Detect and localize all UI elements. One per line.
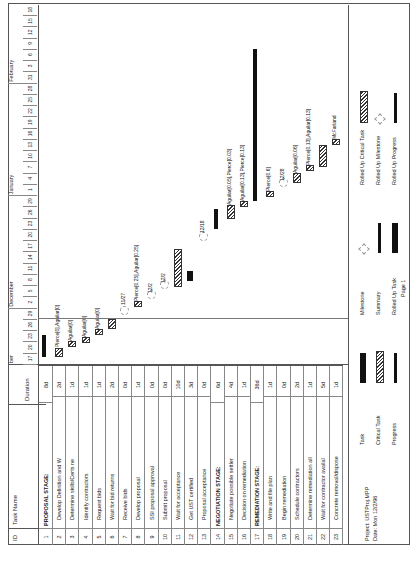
- task-name: REMEDIATION STAGE:: [250, 402, 264, 528]
- progress-swatch-icon: [394, 353, 397, 383]
- task-name: Receive bids: [118, 396, 132, 528]
- timescale-day: 25: [23, 94, 37, 106]
- task-duration: 36d: [250, 365, 264, 404]
- task-id: 19: [277, 528, 291, 545]
- table-row[interactable]: 14NEGOTIATION STAGE:6d: [211, 365, 225, 545]
- bar-resource-label: 12/18: [199, 220, 205, 233]
- timescale-day: 28: [23, 83, 37, 95]
- table-row[interactable]: 20Schedule contractors2d: [290, 365, 304, 545]
- task-duration: 1d: [303, 365, 317, 404]
- legend-label: Summary: [375, 291, 381, 315]
- month-divider: [8, 195, 23, 196]
- bar-resource-label: Pierce[0.25],Aguilar[0.25]: [133, 245, 139, 301]
- timescale-day: 14: [23, 252, 37, 264]
- timescale-day: 12: [23, 27, 37, 39]
- table-row[interactable]: 15Negotiate possible settler4d: [224, 365, 238, 545]
- table-row[interactable]: 4Identify contractors1d: [79, 365, 93, 545]
- table-row[interactable]: 23Concrete removal/dispose1d: [329, 365, 343, 545]
- table-row[interactable]: 1PROPOSAL STAGE:8d: [39, 365, 53, 545]
- task-name: NEGOTIATION STAGE:: [211, 402, 225, 528]
- critical-task-bar[interactable]: [82, 337, 90, 343]
- critical-task-bar[interactable]: [68, 341, 76, 347]
- task-duration: 6d: [211, 365, 225, 404]
- summary-bar[interactable]: [42, 335, 46, 357]
- table-row[interactable]: 3Determine skills/Certs ne1d: [65, 365, 79, 545]
- table-row[interactable]: 2Develop Definition and W2d: [52, 365, 66, 545]
- critical-task-bar[interactable]: [240, 201, 248, 207]
- task-id: 4: [79, 528, 93, 545]
- timescale-day: 11: [23, 263, 37, 275]
- critical-task-bar[interactable]: [266, 191, 274, 197]
- task-id: 12: [184, 528, 198, 545]
- table-row[interactable]: 17REMEDIATION STAGE:36d: [250, 365, 264, 545]
- table-row[interactable]: 21Determine remediation all1d: [303, 365, 317, 545]
- critical-task-bar[interactable]: [227, 205, 235, 219]
- header-task-name: Task Name: [12, 495, 18, 525]
- table-row[interactable]: 8Develop proposal1d: [131, 365, 145, 545]
- timescale-day: 3: [23, 60, 37, 72]
- critical-task-bar[interactable]: [306, 165, 314, 171]
- critical-task-bar[interactable]: [134, 301, 142, 307]
- critical-task-bar[interactable]: [55, 348, 63, 357]
- critical-task-bar[interactable]: [174, 249, 182, 287]
- bar-resource-label: Pierce[0.6]: [265, 167, 271, 191]
- task-name: PROPOSAL STAGE:: [39, 402, 53, 528]
- month-divider: [8, 308, 23, 309]
- task-id: 15: [224, 528, 238, 545]
- task-duration: 10d: [171, 365, 185, 404]
- project-name: Project: USTProj.MPP: [363, 487, 371, 541]
- timescale-day: 17: [23, 353, 37, 365]
- critical-task-bar[interactable]: [108, 319, 116, 329]
- table-row[interactable]: 9SSI proposal approval0d: [145, 365, 159, 545]
- header-id: ID: [12, 535, 18, 541]
- table-row[interactable]: 13Proposal acceptance0d: [197, 365, 211, 545]
- critical-task-bar[interactable]: [95, 329, 103, 335]
- task-duration: 1d: [79, 365, 93, 404]
- task-bar[interactable]: [187, 271, 193, 281]
- task-id: 2: [52, 528, 66, 545]
- task-duration: 3d: [184, 365, 198, 404]
- critical-task-bar[interactable]: [319, 145, 327, 167]
- table-row[interactable]: 16Decision on remediation1d: [237, 365, 251, 545]
- crit-swatch-icon: [376, 351, 384, 383]
- table-row[interactable]: 22Wait for contractor availal5d: [316, 365, 330, 545]
- critical-task-bar[interactable]: [293, 173, 301, 183]
- table-row[interactable]: 11Wait for acceptance10d: [171, 365, 185, 545]
- task-id: 6: [105, 528, 119, 545]
- timescale: 1720232629258111417202326291471013161922…: [8, 5, 39, 365]
- task-id: 21: [303, 528, 317, 545]
- timescale-day: 20: [23, 342, 37, 354]
- table-row[interactable]: 19Begin remediation0d: [277, 365, 291, 545]
- bar-resource-label: Aguilar[0.13],Pierce[0.13]: [239, 145, 245, 201]
- gantt-page: ID Task Name Duration 1PROPOSAL STAGE:8d…: [0, 0, 417, 567]
- task-id: 10: [158, 528, 172, 545]
- summary-bar[interactable]: [214, 209, 218, 229]
- project-date: Date: Mon 12/2/96: [371, 487, 379, 541]
- summary-bar[interactable]: [253, 49, 257, 201]
- timescale-day: 20: [23, 229, 37, 241]
- bar-resource-label: 12/2: [160, 273, 166, 283]
- bar-resource-label: Aguilar[0.06]: [292, 145, 298, 173]
- timescale-day: 23: [23, 330, 37, 342]
- timescale-day: 15: [23, 15, 37, 27]
- task-id: 1: [39, 528, 53, 545]
- timescale-day: 10: [23, 150, 37, 162]
- critical-task-bar[interactable]: [332, 139, 340, 145]
- timescale-day: 19: [23, 117, 37, 129]
- table-row[interactable]: 12Get UST certified3d: [184, 365, 198, 545]
- summary-swatch-icon: [378, 223, 381, 253]
- table-row[interactable]: 18Write and file plan1d: [263, 365, 277, 545]
- table-row[interactable]: 6Wait for bid returns2d: [105, 365, 119, 545]
- timescale-day: 1: [23, 184, 37, 196]
- task-name: Wait for contractor availal: [316, 396, 330, 528]
- page-number: Page 1: [400, 280, 406, 297]
- task-id: 11: [171, 528, 185, 545]
- table-row[interactable]: 10Submit proposal0d: [158, 365, 172, 545]
- legend-label: Task: [359, 434, 365, 445]
- table-row[interactable]: 7Receive bids0d: [118, 365, 132, 545]
- table-row[interactable]: 5Request bids1d: [92, 365, 106, 545]
- task-name: Develop Definition and W: [52, 396, 66, 528]
- task-name: Request bids: [92, 396, 106, 528]
- timescale-day: 18: [23, 4, 37, 16]
- timescale-day: 2: [23, 297, 37, 309]
